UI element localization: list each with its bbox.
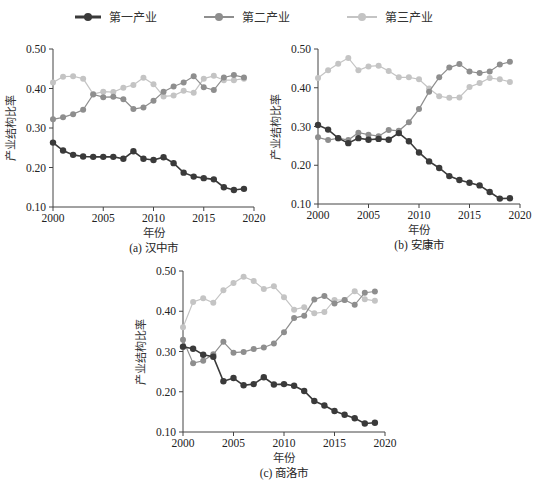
data-point: [221, 184, 227, 190]
data-point: [311, 398, 317, 404]
data-point: [60, 147, 66, 153]
data-point: [231, 77, 237, 83]
x-tick-label: 2020: [509, 209, 532, 221]
data-point: [60, 114, 66, 120]
data-point: [281, 294, 287, 300]
data-point: [467, 68, 473, 74]
y-tick-label: 0.50: [156, 265, 176, 277]
data-point: [200, 352, 206, 358]
data-point: [151, 98, 157, 104]
data-point: [241, 274, 247, 280]
data-point: [476, 182, 482, 188]
data-point: [456, 61, 462, 67]
data-point: [386, 136, 392, 142]
data-point: [372, 420, 378, 426]
data-point: [376, 63, 382, 69]
data-point: [301, 388, 307, 394]
data-point: [170, 160, 176, 166]
data-point: [352, 302, 358, 308]
chart-ankang: 0.100.200.300.400.5020002005201020152020…: [269, 43, 532, 252]
data-point: [201, 175, 207, 181]
data-point: [70, 111, 76, 117]
y-tick-label: 0.20: [156, 386, 176, 398]
data-point: [345, 55, 351, 61]
data-point: [50, 116, 56, 122]
data-point: [221, 74, 227, 80]
data-point: [150, 157, 156, 163]
data-point: [325, 67, 331, 73]
data-point: [416, 149, 422, 155]
data-point: [507, 79, 513, 85]
data-point: [240, 382, 246, 388]
data-point: [355, 130, 361, 136]
data-point: [291, 383, 297, 389]
data-point: [140, 156, 146, 162]
chart-shangluo: 0.100.200.300.400.5020002005201020152020…: [134, 265, 397, 480]
y-tick-label: 0.20: [291, 159, 311, 171]
data-point: [396, 130, 402, 136]
data-point: [406, 74, 412, 80]
data-point: [110, 94, 116, 100]
data-point: [342, 297, 348, 303]
chart-caption: (b) 安康市: [394, 238, 443, 252]
data-point: [321, 402, 327, 408]
data-point: [321, 293, 327, 299]
data-point: [180, 169, 186, 175]
data-point: [507, 59, 513, 65]
data-point: [362, 290, 368, 296]
y-tick-label: 0.50: [26, 43, 46, 55]
data-point: [325, 137, 331, 143]
chart-hanzhong: 0.100.200.300.400.5020002005201020152020…: [4, 43, 266, 255]
data-point: [251, 346, 257, 352]
data-point: [436, 165, 442, 171]
data-point: [352, 288, 358, 294]
data-point: [210, 354, 216, 360]
x-tick-label: 2005: [92, 212, 115, 224]
data-point: [180, 337, 186, 343]
data-point: [386, 68, 392, 74]
data-point: [315, 75, 321, 81]
data-point: [396, 74, 402, 80]
data-point: [366, 63, 372, 69]
data-point: [191, 173, 197, 179]
x-tick-label: 2010: [273, 437, 296, 449]
data-point: [301, 304, 307, 310]
data-point: [355, 135, 361, 141]
y-tick-label: 0.30: [26, 122, 46, 134]
y-tick-label: 0.30: [291, 121, 311, 133]
data-point: [426, 89, 432, 95]
data-point: [341, 411, 347, 417]
data-point: [211, 73, 217, 79]
y-tick-label: 0.50: [291, 43, 311, 55]
data-point: [120, 96, 126, 102]
data-point: [291, 307, 297, 313]
data-point: [352, 415, 358, 421]
data-point: [487, 68, 493, 74]
x-tick-label: 2020: [243, 212, 266, 224]
data-point: [120, 85, 126, 91]
data-point: [331, 408, 337, 414]
data-point: [386, 127, 392, 133]
data-point: [406, 119, 412, 125]
y-tick-label: 0.20: [26, 162, 46, 174]
data-point: [477, 70, 483, 76]
data-point: [497, 62, 503, 68]
x-tick-label: 2020: [374, 437, 397, 449]
data-point: [466, 179, 472, 185]
data-point: [477, 80, 483, 86]
data-point: [355, 67, 361, 73]
y-axis-label: 产业结构比率: [269, 94, 282, 160]
data-point: [335, 135, 341, 141]
data-point: [230, 375, 236, 381]
data-point: [261, 374, 267, 380]
data-point: [220, 378, 226, 384]
data-point: [261, 344, 267, 350]
x-axis-label: 年份: [143, 226, 166, 239]
data-point: [436, 74, 442, 80]
data-point: [220, 339, 226, 345]
y-tick-label: 0.40: [26, 83, 46, 95]
data-point: [210, 300, 216, 306]
data-point: [50, 80, 56, 86]
data-point: [261, 286, 267, 292]
data-point: [456, 177, 462, 183]
